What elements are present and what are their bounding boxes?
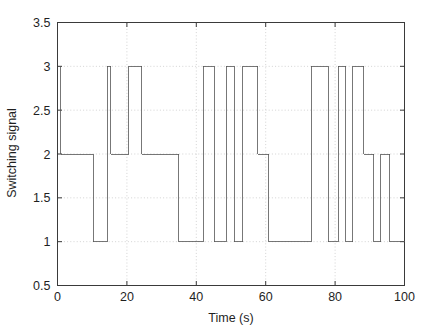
switching-signal-chart: 0204060801000.511.522.533.5 Time (s) Swi… <box>0 0 434 330</box>
y-tick-label: 0.5 <box>33 279 50 293</box>
x-tick-label: 40 <box>189 290 203 304</box>
y-axis-label: Switching signal <box>5 108 19 198</box>
x-tick-label: 20 <box>120 290 134 304</box>
x-axis-label: Time (s) <box>208 311 253 325</box>
y-tick-label: 2 <box>44 148 51 162</box>
x-tick-label: 0 <box>54 290 61 304</box>
y-tick-label: 3 <box>44 60 51 74</box>
y-tick-label: 3.5 <box>33 16 50 30</box>
y-tick-label: 1 <box>44 235 51 249</box>
y-tick-label: 2.5 <box>33 104 50 118</box>
x-tick-label: 80 <box>328 290 342 304</box>
y-tick-label: 1.5 <box>33 191 50 205</box>
x-tick-label: 100 <box>394 290 415 304</box>
chart-background <box>0 0 434 330</box>
x-tick-label: 60 <box>259 290 273 304</box>
chart-figure: 0204060801000.511.522.533.5 Time (s) Swi… <box>0 0 434 330</box>
